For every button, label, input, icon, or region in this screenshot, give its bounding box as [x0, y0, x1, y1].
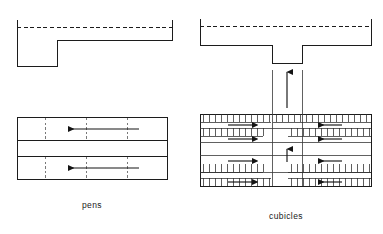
cubicle-row-top [200, 114, 371, 122]
cubicles-block-outline [200, 114, 371, 186]
cubicles-plan [200, 70, 371, 186]
cubicle-row-bottom [200, 178, 371, 186]
cubicle-row-third [200, 164, 371, 172]
pens-caption: pens [82, 200, 102, 210]
diagram-canvas: pens cubicles [0, 0, 383, 234]
cubicles-caption: cubicles [269, 211, 303, 221]
pens-central-passage [17, 140, 167, 156]
cubicles-cross-section [200, 19, 371, 63]
cubicle-row-second [200, 128, 371, 136]
pens-cross-section [17, 20, 172, 66]
diagram-root: pens cubicles [0, 0, 383, 234]
pens-plan [17, 117, 167, 179]
